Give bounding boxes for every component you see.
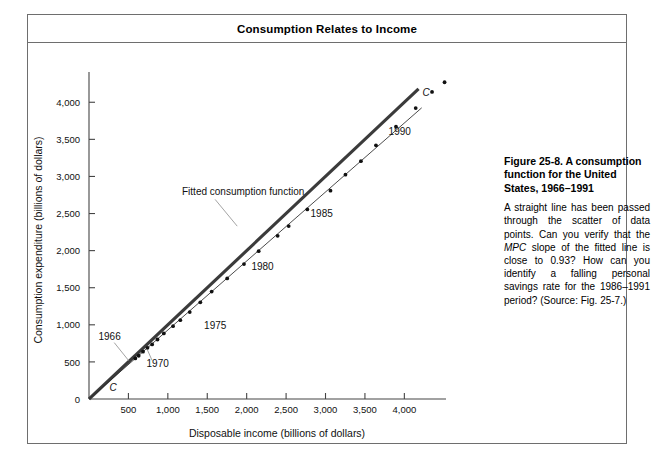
y-axis-tick-label: 1,000: [56, 319, 80, 330]
x-axis-title: Disposable income (billions of dollars): [189, 427, 365, 439]
data-point: [359, 159, 363, 163]
annotation-leaders: [114, 199, 237, 360]
data-point: [305, 207, 309, 211]
year-1990-label: 1990: [389, 126, 412, 137]
data-point: [276, 234, 280, 238]
x-axis-tick-labels: 5001,0001,5002,0002,5003,0003,5004,000: [120, 404, 416, 415]
y-axis-tick-labels: 05001,0001,5002,0002,5003,0003,5004,000: [56, 97, 80, 405]
curve-label-origin: C: [109, 382, 117, 393]
consumption-scatter-chart: 05001,0001,5002,0002,5003,0003,5004,000 …: [28, 43, 458, 444]
data-point: [329, 189, 333, 193]
y-axis-ticks: [89, 102, 95, 362]
x-axis-tick-label: 2,500: [274, 404, 298, 415]
caption-body-part2: slope of the fitted line is close to 0.9…: [504, 242, 650, 306]
caption-title: Figure 25-8. A consumption function for …: [504, 155, 650, 195]
x-axis-tick-label: 1,500: [195, 404, 219, 415]
year-1966-leader: [114, 343, 129, 361]
caption-body-part1: A straight line has been passed through …: [504, 202, 650, 239]
caption-body: A straight line has been passed through …: [504, 201, 650, 307]
y-axis-title: Consumption expenditure (billions of dol…: [32, 136, 44, 343]
y-axis-tick-label: 4,000: [56, 97, 80, 108]
data-point: [188, 310, 192, 314]
data-point: [414, 106, 418, 110]
y-axis-tick-label: 2,000: [56, 245, 80, 256]
fitted-function-leader: [215, 199, 237, 226]
x-axis-tick-label: 2,000: [235, 404, 259, 415]
data-point: [430, 90, 434, 94]
y-axis-tick-label: 3,000: [56, 171, 80, 182]
year-1966-label: 1966: [98, 331, 121, 342]
data-point: [137, 354, 141, 358]
x-axis-tick-label: 3,000: [314, 404, 338, 415]
caption-mpc-term: MPC: [504, 242, 526, 253]
curve-label-end: C: [422, 87, 430, 98]
figure-header-bar: Consumption Relates to Income: [28, 15, 626, 43]
data-points: [133, 80, 446, 360]
x-axis-ticks: [128, 393, 404, 399]
data-point: [178, 318, 182, 322]
fitted-function-label: Fitted consumption function: [182, 186, 304, 197]
y-axis-tick-label: 0: [75, 394, 80, 405]
x-axis-tick-label: 4,000: [392, 404, 416, 415]
y-axis-tick-label: 500: [64, 357, 80, 368]
chart-series: [89, 89, 422, 399]
data-point: [225, 277, 229, 281]
data-point: [141, 350, 145, 354]
year-1985-label: 1985: [311, 208, 334, 219]
data-point: [156, 338, 160, 342]
x-axis-tick-label: 500: [120, 404, 136, 415]
figure-page: Consumption Relates to Income 05001,0001…: [0, 0, 656, 458]
year-1970-label: 1970: [147, 358, 170, 369]
data-point: [171, 324, 175, 328]
data-point: [242, 262, 246, 266]
data-point: [344, 173, 348, 177]
data-point: [374, 143, 378, 147]
x-axis-tick-label: 1,000: [156, 404, 180, 415]
y-axis-tick-label: 2,500: [56, 208, 80, 219]
data-point: [443, 80, 447, 84]
year-1980-label: 1980: [251, 261, 274, 272]
data-point: [287, 224, 291, 228]
y-axis-tick-label: 1,500: [56, 282, 80, 293]
year-1975-label: 1975: [204, 320, 227, 331]
data-point: [198, 300, 202, 304]
data-point: [146, 346, 150, 350]
y-axis-tick-label: 3,500: [56, 134, 80, 145]
figure-caption: Figure 25-8. A consumption function for …: [504, 155, 650, 307]
data-point: [150, 343, 154, 347]
data-point: [133, 357, 137, 361]
forty-five-degree-line: [89, 89, 419, 399]
x-axis-tick-label: 3,500: [353, 404, 377, 415]
page-title: Consumption Relates to Income: [237, 23, 417, 35]
data-point: [257, 249, 261, 253]
figure-frame: Consumption Relates to Income 05001,0001…: [27, 14, 627, 444]
data-point: [210, 290, 214, 294]
data-point: [162, 332, 166, 336]
chart-container: 05001,0001,5002,0002,5003,0003,5004,000 …: [28, 43, 458, 444]
